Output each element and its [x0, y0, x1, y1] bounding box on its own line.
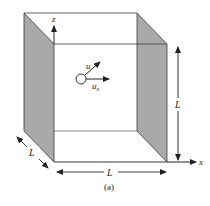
depth-dimension-label: L: [28, 147, 35, 158]
left-wall-shaded: [24, 13, 54, 162]
figure-caption: (a): [104, 182, 114, 192]
cube-svg: z x u ux L L L (a): [0, 0, 210, 206]
cube-diagram: z x u ux L L L (a): [0, 0, 210, 206]
z-axis-label: z: [51, 14, 56, 24]
width-dimension-label: L: [106, 167, 113, 178]
height-dimension-label: L: [174, 99, 181, 110]
x-axis-label: x: [198, 157, 203, 167]
right-wall-shaded: [137, 13, 167, 162]
particle-circle: [76, 74, 86, 84]
velocity-label: u: [86, 61, 91, 71]
velocity-x-component-label: ux: [92, 81, 100, 92]
